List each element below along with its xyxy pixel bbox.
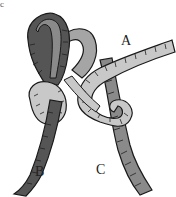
- rope-b-dark-loop: [28, 13, 70, 85]
- label-c: C: [96, 163, 105, 177]
- corner-mark: c: [0, 0, 4, 9]
- knot-diagram: c A B C: [0, 0, 176, 197]
- label-a: A: [121, 34, 131, 48]
- knot-illustration: [0, 0, 176, 197]
- label-b: B: [35, 165, 44, 179]
